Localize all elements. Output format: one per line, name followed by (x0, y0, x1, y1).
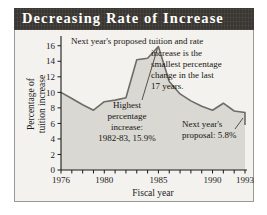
x-tick-label: 1990 (204, 175, 223, 185)
y-tick-label: 16 (46, 41, 56, 51)
x-axis-title: Fiscal year (132, 188, 174, 198)
x-tick-label: 1993 (236, 175, 254, 185)
y-tick-label: 4 (51, 134, 56, 144)
annotation-peak: Highest (113, 100, 141, 110)
y-tick-label: 6 (51, 119, 56, 129)
x-tick-label: 1976 (52, 175, 71, 185)
y-tick-label: 14 (46, 56, 56, 66)
y-axis-title: Percentage oftuition increase (26, 75, 47, 133)
annotation-peak: percentage (108, 111, 147, 121)
y-tick-label: 12 (46, 72, 55, 82)
svg-text:Percentage of: Percentage of (26, 77, 36, 130)
chart-figure: Decreasing Rate of Increase 024681012141… (0, 0, 267, 215)
y-tick-label: 8 (51, 103, 56, 113)
x-tick-label: 1980 (95, 175, 114, 185)
annotation-top: smallest percentage (151, 59, 222, 69)
annotation-top: change in the last (151, 70, 214, 80)
annotation-top: 17 years. (151, 81, 184, 91)
annotation-peak: increase: (111, 122, 143, 132)
y-tick-label: 0 (51, 165, 56, 175)
annotation-top: Next year's proposed tuition and rate (71, 36, 203, 46)
y-tick-label: 10 (46, 88, 56, 98)
chart-title: Decreasing Rate of Increase (22, 10, 224, 27)
x-tick-label: 1985 (149, 175, 168, 185)
annotation-end: proposal: 5.8% (182, 130, 237, 140)
svg-text:tuition increase: tuition increase (37, 75, 47, 133)
chart-plot: 024681012141619761980198519901993Fiscal … (14, 30, 254, 202)
title-banner: Decreasing Rate of Increase (14, 8, 254, 30)
annotation-top: increase is the (151, 48, 202, 58)
annotation-end: Next year's (182, 119, 223, 129)
y-tick-label: 2 (51, 150, 56, 160)
annotation-peak: 1982-83, 15.9% (98, 133, 156, 143)
